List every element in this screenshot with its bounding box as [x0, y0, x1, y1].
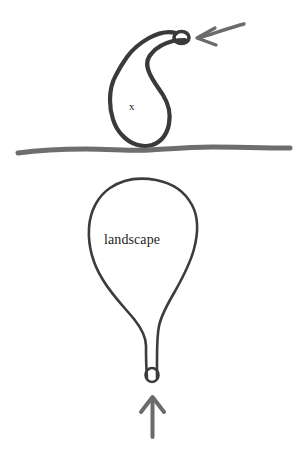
- lower-balloon-shape: [89, 179, 197, 382]
- diagram-canvas: x landscape: [0, 0, 304, 475]
- bottom-up-pointing-arrow: [141, 397, 164, 437]
- lower-balloon-outline: [89, 179, 197, 378]
- upper-balloon-shape: [110, 32, 189, 146]
- upper-shape-label: x: [129, 100, 135, 112]
- lower-shape-label: landscape: [104, 232, 160, 248]
- upper-balloon-loop: [174, 32, 189, 44]
- top-left-pointing-arrow: [197, 24, 244, 45]
- upper-balloon-outline: [110, 32, 185, 146]
- horizontal-divider-line: [18, 147, 290, 153]
- top-arrow-shaft: [199, 24, 244, 38]
